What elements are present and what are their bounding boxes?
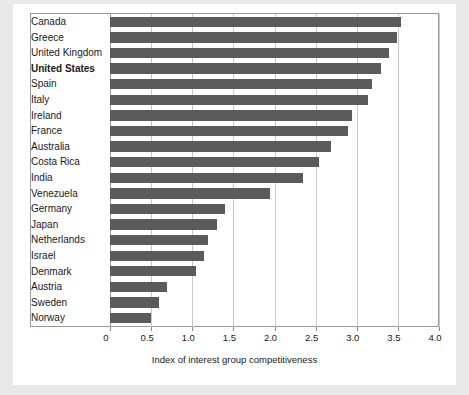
bar-row: Japan — [31, 217, 438, 233]
bar — [110, 173, 303, 183]
bar-track — [110, 45, 438, 61]
bar-track — [110, 123, 438, 139]
bar — [110, 17, 401, 27]
tick-mark-0 — [110, 327, 111, 331]
bar — [110, 297, 159, 307]
tick-mark-0.5 — [151, 327, 152, 331]
x-axis-ticks: 00.51.01.52.02.53.03.54.0 — [110, 327, 439, 347]
bar-track — [110, 310, 438, 326]
bar-track — [110, 30, 438, 46]
category-label: Austria — [31, 279, 109, 295]
bar — [110, 235, 208, 245]
gridline-4.0 — [439, 14, 440, 327]
bar — [110, 251, 204, 261]
bar-row: Denmark — [31, 264, 438, 280]
bar-track — [110, 201, 438, 217]
bar-track — [110, 14, 438, 30]
bar-row: India — [31, 170, 438, 186]
bar-rows: CanadaGreeceUnited KingdomUnited StatesS… — [31, 14, 438, 326]
bar — [110, 63, 381, 73]
category-label: United States — [31, 61, 109, 77]
bar — [110, 48, 389, 58]
bar — [110, 126, 348, 136]
bar-track — [110, 154, 438, 170]
bar-track — [110, 232, 438, 248]
bar-row: Israel — [31, 248, 438, 264]
bar — [110, 188, 270, 198]
bar-track — [110, 295, 438, 311]
bar-row: Italy — [31, 92, 438, 108]
bar — [110, 157, 319, 167]
bar-track — [110, 92, 438, 108]
x-axis-title: Index of interest group competitiveness — [13, 354, 456, 365]
bar — [110, 32, 397, 42]
bar-row: United States — [31, 61, 438, 77]
tick-mark-1.0 — [192, 327, 193, 331]
category-label: Costa Rica — [31, 154, 109, 170]
category-label: Greece — [31, 30, 109, 46]
bar-row: Spain — [31, 76, 438, 92]
bar-row: Costa Rica — [31, 154, 438, 170]
bar — [110, 313, 151, 323]
category-label: Canada — [31, 14, 109, 30]
tick-mark-1.5 — [233, 327, 234, 331]
bar-track — [110, 248, 438, 264]
category-label: United Kingdom — [31, 45, 109, 61]
category-label: Netherlands — [31, 232, 109, 248]
bar-row: Greece — [31, 30, 438, 46]
bar-row: United Kingdom — [31, 45, 438, 61]
tick-mark-3.5 — [398, 327, 399, 331]
category-label: Venezuela — [31, 186, 109, 202]
bar-track — [110, 264, 438, 280]
category-label: Spain — [31, 76, 109, 92]
bar-row: Sweden — [31, 295, 438, 311]
tick-label-1.0: 1.0 — [182, 332, 195, 343]
tick-mark-3.0 — [357, 327, 358, 331]
category-label: Japan — [31, 217, 109, 233]
tick-label-1.5: 1.5 — [223, 332, 236, 343]
tick-mark-2.0 — [275, 327, 276, 331]
tick-label-3.5: 3.5 — [387, 332, 400, 343]
bar-row: Canada — [31, 14, 438, 30]
bar-row: Germany — [31, 201, 438, 217]
bar-row: Netherlands — [31, 232, 438, 248]
category-label: India — [31, 170, 109, 186]
category-label: Italy — [31, 92, 109, 108]
bar-row: Venezuela — [31, 186, 438, 202]
bar-track — [110, 170, 438, 186]
tick-label-0: 0 — [103, 332, 108, 343]
category-label: Ireland — [31, 108, 109, 124]
bar-track — [110, 279, 438, 295]
tick-mark-4.0 — [439, 327, 440, 331]
chart-card: CanadaGreeceUnited KingdomUnited StatesS… — [13, 4, 456, 385]
category-label: Norway — [31, 310, 109, 326]
category-label: France — [31, 123, 109, 139]
bar — [110, 110, 352, 120]
category-label: Germany — [31, 201, 109, 217]
category-label: Israel — [31, 248, 109, 264]
bar-track — [110, 186, 438, 202]
bar — [110, 95, 368, 105]
bar-track — [110, 76, 438, 92]
bar — [110, 266, 196, 276]
bar-row: France — [31, 123, 438, 139]
bar — [110, 204, 225, 214]
tick-label-0.5: 0.5 — [141, 332, 154, 343]
category-label: Sweden — [31, 295, 109, 311]
tick-label-2.0: 2.0 — [264, 332, 277, 343]
tick-label-2.5: 2.5 — [305, 332, 318, 343]
bar-track — [110, 217, 438, 233]
bar-track — [110, 61, 438, 77]
bar-track — [110, 108, 438, 124]
bar — [110, 79, 372, 89]
bar-track — [110, 139, 438, 155]
category-label: Australia — [31, 139, 109, 155]
bar-row: Australia — [31, 139, 438, 155]
bar — [110, 219, 217, 229]
tick-label-3.0: 3.0 — [346, 332, 359, 343]
category-label: Denmark — [31, 264, 109, 280]
bar-row: Ireland — [31, 108, 438, 124]
bar-row: Austria — [31, 279, 438, 295]
tick-mark-2.5 — [316, 327, 317, 331]
tick-label-4.0: 4.0 — [428, 332, 441, 343]
